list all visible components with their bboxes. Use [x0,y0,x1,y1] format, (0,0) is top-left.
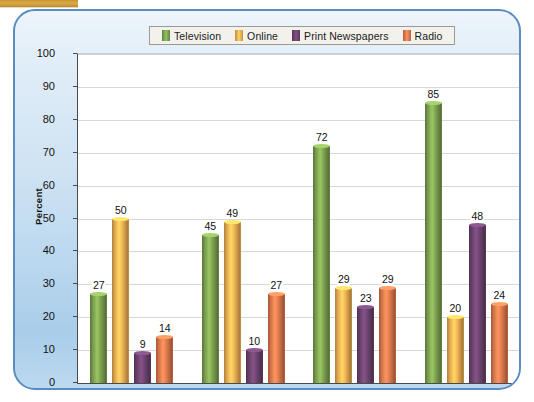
legend-swatch-icon [292,30,300,41]
bar-top-cap [313,144,330,148]
bar-value-label: 10 [247,336,261,347]
gridline [78,153,521,154]
bar[interactable]: 45 [202,235,219,383]
bar[interactable]: 29 [335,288,352,383]
y-axis-tick-mark [73,185,77,186]
bar[interactable]: 27 [268,294,285,383]
y-axis-tick-label: 100 [13,47,55,59]
page-tab-strip [0,0,78,8]
bar-value-label: 27 [269,280,283,291]
bar-value-label: 45 [203,221,217,232]
gridline [78,251,521,252]
y-axis-tick-label: 40 [13,244,55,256]
bar[interactable]: 9 [134,353,151,383]
bar-top-cap [112,217,129,221]
bar[interactable]: 50 [112,219,129,384]
y-axis-tick-label: 20 [13,310,55,322]
y-axis-tick-mark [73,382,77,383]
bar-top-cap [335,286,352,290]
bar-top-cap [268,292,285,296]
bar[interactable]: 20 [447,317,464,383]
bar-top-cap [379,286,396,290]
bar-top-cap [491,302,508,306]
bar-value-label: 27 [92,280,106,291]
gridline [78,54,521,55]
bar[interactable]: 85 [425,103,442,383]
y-axis-tick-label: 60 [13,179,55,191]
legend-item-print-newspapers[interactable]: Print Newspapers [292,30,388,42]
bar-value-label: 72 [315,132,329,143]
bar-top-cap [202,233,219,237]
bar-value-label: 50 [114,205,128,216]
y-axis-tick-mark [73,250,77,251]
bar-top-cap [90,292,107,296]
gridline [78,120,521,121]
bar-top-cap [357,305,374,309]
bar[interactable]: 49 [224,222,241,383]
y-axis-tick-mark [73,316,77,317]
bar-value-label: 9 [139,339,147,350]
gridline [78,284,521,285]
y-axis-tick-mark [73,349,77,350]
legend-item-online[interactable]: Online [235,30,278,42]
bar-value-label: 14 [158,323,172,334]
legend-item-label: Print Newspapers [304,30,388,42]
bar[interactable]: 29 [379,288,396,383]
legend-item-radio[interactable]: Radio [403,30,443,42]
legend-item-label: Radio [415,30,443,42]
bar-top-cap [447,315,464,319]
y-axis-tick-label: 10 [13,343,55,355]
y-axis-tick-mark [73,283,77,284]
bar[interactable]: 48 [469,225,486,383]
plot-area: 2750914454910277229232985204824 [77,53,521,384]
gridline [78,186,521,187]
chart-screenshot: TelevisionOnlinePrint NewspapersRadio Pe… [0,0,534,402]
legend-item-label: Television [174,30,221,42]
bar-top-cap [156,335,173,339]
y-axis-tick-label: 0 [13,376,55,388]
gridline [78,219,521,220]
bar[interactable]: 27 [90,294,107,383]
bar-value-label: 29 [381,274,395,285]
chart-legend: TelevisionOnlinePrint NewspapersRadio [149,26,455,45]
bar-top-cap [469,223,486,227]
bar-top-cap [425,101,442,105]
bar-top-cap [224,220,241,224]
y-axis-tick-label: 50 [13,212,55,224]
bar-top-cap [246,348,263,352]
y-axis-tick-mark [73,53,77,54]
gridline [78,87,521,88]
legend-item-label: Online [247,30,278,42]
y-axis-tick-label: 90 [13,80,55,92]
legend-swatch-icon [162,30,170,41]
chart-panel: TelevisionOnlinePrint NewspapersRadio Pe… [13,9,521,390]
y-axis-tick-mark [73,86,77,87]
plot-inner: 2750914454910277229232985204824 [78,54,521,383]
bar-value-label: 49 [225,208,239,219]
bar[interactable]: 23 [357,307,374,383]
bar-value-label: 23 [359,293,373,304]
bar[interactable]: 10 [246,350,263,383]
y-axis-tick-label: 80 [13,113,55,125]
y-axis-tick-label: 70 [13,146,55,158]
bar-top-cap [134,351,151,355]
y-axis-tick-label: 30 [13,277,55,289]
bar-value-label: 24 [492,290,506,301]
legend-item-television[interactable]: Television [162,30,221,42]
legend-swatch-icon [403,30,411,41]
legend-swatch-icon [235,30,243,41]
bar-value-label: 48 [470,211,484,222]
bar[interactable]: 14 [156,337,173,383]
y-axis-tick-mark [73,218,77,219]
bar-value-label: 29 [337,274,351,285]
bar-value-label: 20 [448,303,462,314]
y-axis-tick-mark [73,152,77,153]
bar-value-label: 85 [426,89,440,100]
bar[interactable]: 24 [491,304,508,383]
bar[interactable]: 72 [313,146,330,383]
y-axis-tick-mark [73,119,77,120]
